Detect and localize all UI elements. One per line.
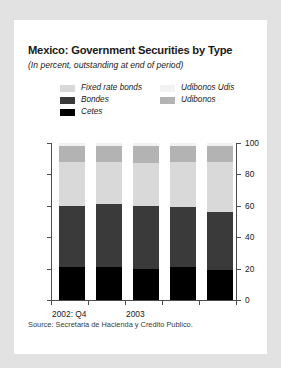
y-tick-label: 80	[245, 170, 254, 178]
bar-segment	[170, 146, 196, 162]
legend-row: Cetes	[60, 106, 260, 118]
legend-swatch-icon	[60, 85, 75, 92]
x-tick	[88, 301, 89, 305]
legend-label: Fixed rate bonds	[81, 83, 142, 93]
legend-swatch-icon	[160, 97, 175, 104]
chart-source-note: Source: Secretaria de Hacienda y Credito…	[28, 320, 193, 329]
bar-stack	[170, 143, 196, 300]
x-tick	[236, 301, 237, 305]
y-tick	[237, 300, 241, 301]
y-axis-left	[51, 143, 52, 300]
y-tick-label: 100	[245, 139, 259, 147]
bar-segment	[133, 146, 159, 163]
x-tick	[125, 301, 126, 305]
legend-row: Fixed rate bonds Udibonos Udis	[60, 82, 260, 94]
y-tick	[47, 143, 51, 144]
bar-segment	[96, 267, 122, 300]
legend-item-fixed-rate-bonds: Fixed rate bonds	[60, 83, 160, 93]
bar-segment	[207, 162, 233, 212]
legend-swatch-icon	[160, 85, 175, 92]
y-axis-right	[236, 143, 237, 300]
bars-container	[51, 143, 236, 300]
y-tick	[237, 206, 241, 207]
bar-stack	[96, 143, 122, 300]
bar-stack	[59, 143, 85, 300]
bar-segment	[170, 207, 196, 267]
y-tick-label: 0	[245, 296, 250, 304]
chart-plot-area: 020406080100 2002: Q42003	[51, 143, 236, 300]
x-tick	[162, 301, 163, 305]
bar-stack	[133, 143, 159, 300]
y-tick	[47, 269, 51, 270]
bar-segment	[59, 146, 85, 162]
y-tick	[47, 206, 51, 207]
bar-segment	[170, 162, 196, 208]
x-tick-label: 2002: Q4	[52, 309, 86, 319]
y-tick	[237, 237, 241, 238]
bar-segment	[59, 162, 85, 206]
legend-label: Udibonos Udis	[181, 83, 234, 93]
bar-segment	[133, 269, 159, 300]
legend-swatch-icon	[60, 97, 75, 104]
y-tick	[47, 237, 51, 238]
bar-stack	[207, 143, 233, 300]
y-tick-label: 40	[245, 233, 254, 241]
chart-legend: Fixed rate bonds Udibonos Udis Bondes Ud…	[60, 82, 260, 118]
x-tick	[199, 301, 200, 305]
y-tick	[237, 174, 241, 175]
bar-segment	[207, 146, 233, 162]
legend-item-udibonos: Udibonos	[160, 95, 260, 105]
legend-label: Udibonos	[181, 95, 216, 105]
bar-segment	[96, 146, 122, 162]
chart-card: Mexico: Government Securities by Type (I…	[14, 20, 267, 354]
legend-swatch-icon	[60, 109, 75, 116]
chart-subtitle: (In percent, outstanding at end of perio…	[28, 60, 183, 70]
legend-row: Bondes Udibonos	[60, 94, 260, 106]
y-tick	[47, 174, 51, 175]
y-tick-label: 20	[245, 265, 254, 273]
legend-item-udibonos-udis: Udibonos Udis	[160, 83, 260, 93]
bar-segment	[207, 212, 233, 270]
y-tick-label: 60	[245, 202, 254, 210]
legend-label: Cetes	[81, 107, 102, 117]
legend-item-cetes: Cetes	[60, 107, 160, 117]
legend-item-bondes: Bondes	[60, 95, 160, 105]
bar-segment	[133, 206, 159, 269]
bar-segment	[96, 204, 122, 267]
bar-segment	[207, 270, 233, 300]
legend-label: Bondes	[81, 95, 109, 105]
x-axis	[51, 300, 237, 301]
bar-segment	[133, 163, 159, 205]
y-tick	[237, 143, 241, 144]
y-tick	[237, 269, 241, 270]
bar-segment	[59, 206, 85, 267]
bar-segment	[96, 162, 122, 204]
chart-title: Mexico: Government Securities by Type	[28, 44, 232, 56]
x-tick-label: 2003	[126, 309, 145, 319]
bar-segment	[59, 267, 85, 300]
bar-segment	[170, 267, 196, 300]
x-tick	[51, 301, 52, 305]
